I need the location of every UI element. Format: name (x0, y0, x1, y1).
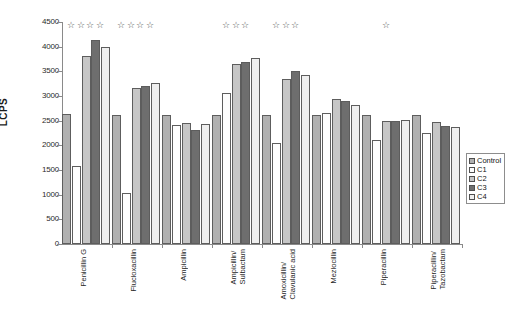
significance-stars: ☆ (382, 20, 392, 30)
bar (422, 133, 431, 244)
y-axis-tick (57, 219, 62, 220)
bar (282, 79, 291, 244)
bar (441, 126, 450, 244)
bar (351, 105, 360, 244)
bar (372, 140, 381, 244)
legend-item: C2 (469, 174, 501, 183)
chart-legend: ControlC1C2C3C4 (466, 153, 505, 204)
significance-stars: ☆☆☆☆ (117, 20, 155, 30)
significance-stars: ☆☆☆ (272, 20, 301, 30)
legend-item: C3 (469, 183, 501, 192)
legend-swatch (469, 185, 475, 191)
y-axis-title: LCPS (0, 98, 9, 126)
bar (132, 88, 141, 244)
legend-swatch (469, 194, 475, 200)
legend-swatch (469, 167, 475, 173)
bar-group (112, 22, 162, 244)
x-axis-label: Amoxicillin/Clavulanic acid (279, 249, 297, 299)
bar (182, 123, 191, 244)
x-axis-tick (462, 244, 463, 248)
bar (151, 83, 160, 244)
y-axis-tick (57, 170, 62, 171)
y-axis-tick-labels: 450040003500300025002000150010005000 (26, 22, 59, 245)
plot-area (62, 22, 462, 244)
bar (141, 86, 150, 244)
bar (301, 75, 310, 244)
bar-group (312, 22, 362, 244)
bar (362, 115, 371, 244)
y-axis-tick (57, 47, 62, 48)
legend-label: C4 (477, 192, 487, 201)
bar (432, 122, 441, 244)
bar (262, 115, 271, 244)
bar-group (212, 22, 262, 244)
significance-stars: ☆☆☆ (222, 20, 251, 30)
bar (172, 125, 181, 244)
legend-item: Control (469, 156, 501, 165)
y-axis-tick (57, 96, 62, 97)
legend-label: Control (477, 156, 501, 165)
y-axis-tick (57, 244, 62, 245)
legend-label: C1 (477, 165, 487, 174)
bar-group (162, 22, 212, 244)
x-axis-label: Ampicillin (179, 249, 188, 281)
x-axis-tick (262, 244, 263, 248)
bar (62, 114, 71, 244)
x-axis-tick (312, 244, 313, 248)
bar (112, 115, 121, 244)
bar-group (62, 22, 112, 244)
chart-container: 450040003500300025002000150010005000 LCP… (0, 0, 529, 314)
bar (272, 143, 281, 244)
bar (232, 64, 241, 244)
x-axis-label: Penicillin G (79, 249, 88, 287)
bar (122, 193, 131, 244)
bar (82, 56, 91, 244)
significance-stars: ☆☆☆☆ (67, 20, 105, 30)
y-axis-tick (57, 145, 62, 146)
bar (322, 113, 331, 244)
bar (312, 115, 321, 244)
x-axis-tick (362, 244, 363, 248)
x-axis-tick (162, 244, 163, 248)
bar-group (262, 22, 312, 244)
x-axis-label: Piperacillin/Tazobactam (429, 249, 447, 289)
y-axis-tick (57, 71, 62, 72)
legend-label: C2 (477, 174, 487, 183)
x-axis-label: Ampicillin/Sulbactam (229, 249, 247, 284)
y-axis-tick (57, 22, 62, 23)
x-axis-label: Piperacillin (379, 249, 388, 285)
bar (401, 120, 410, 244)
bar (391, 121, 400, 244)
bar (101, 47, 110, 244)
legend-label: C3 (477, 183, 487, 192)
x-axis-tick (112, 244, 113, 248)
bar-group (412, 22, 462, 244)
bar (212, 115, 221, 244)
bar (291, 71, 300, 244)
bar (382, 121, 391, 244)
bar (91, 40, 100, 244)
bar (241, 62, 250, 244)
bar (72, 166, 81, 244)
y-axis-tick (57, 121, 62, 122)
bar (162, 115, 171, 244)
bar (191, 130, 200, 244)
legend-swatch (469, 158, 475, 164)
x-axis-tick (412, 244, 413, 248)
bar (451, 127, 460, 244)
bar (341, 101, 350, 244)
x-axis-tick (212, 244, 213, 248)
x-axis-label: Mezlocillin (329, 249, 338, 284)
bar-group (362, 22, 412, 244)
legend-item: C1 (469, 165, 501, 174)
x-axis-label: Flucloxacillin (129, 249, 138, 292)
bar (251, 58, 260, 244)
bar (201, 124, 210, 244)
legend-item: C4 (469, 192, 501, 201)
bar (332, 99, 341, 244)
y-axis-tick (57, 195, 62, 196)
bar (412, 115, 421, 244)
bar (222, 93, 231, 244)
legend-swatch (469, 176, 475, 182)
